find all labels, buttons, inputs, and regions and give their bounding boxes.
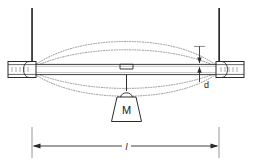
diagram-canvas: M d l <box>0 0 256 165</box>
span-label: l <box>126 142 129 152</box>
left-end-clamp-block <box>8 62 36 78</box>
left-vertical-support-post <box>31 8 33 68</box>
right-vertical-support-post <box>218 8 220 66</box>
span-dimension-l: l <box>32 127 219 158</box>
horizontal-beam <box>18 64 238 74</box>
beam-deflection-diagram: M d l <box>0 0 256 165</box>
deflection-label: d <box>204 80 209 90</box>
mass-label: M <box>122 104 131 116</box>
deflection-curve-upper-outer <box>33 42 218 67</box>
hanging-mass-weight: M <box>112 93 142 122</box>
right-end-clamp-block <box>216 62 244 78</box>
